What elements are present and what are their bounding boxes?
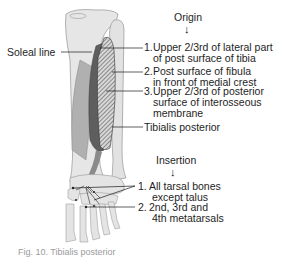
origin-item-2-num: 2. (144, 66, 153, 77)
insertion-item-2-num: 2. (138, 202, 147, 213)
insertion-arrow-icon: ↓ (170, 167, 176, 178)
origin-item-3-num: 3. (144, 86, 153, 97)
origin-item-1-num: 1. (144, 42, 153, 53)
foot-bones (66, 202, 120, 242)
insertion-item-1-num: 1. (138, 181, 147, 192)
origin-item-3-line3: membrane (153, 108, 203, 119)
insertion-heading: Insertion (156, 155, 196, 166)
origin-arrow-icon: ↓ (184, 24, 190, 35)
figure-caption: Fig. 10. Tibialis posterior (18, 247, 116, 257)
origin-heading: Origin (174, 12, 202, 23)
origin-item-1-line2: of post surface of tibia (153, 53, 256, 64)
soleal-line-label: Soleal line (7, 47, 55, 58)
insertion-item-2-line2: 4th metatarsals (152, 213, 224, 224)
muscle-name-label: Tibialis posterior (144, 122, 220, 133)
